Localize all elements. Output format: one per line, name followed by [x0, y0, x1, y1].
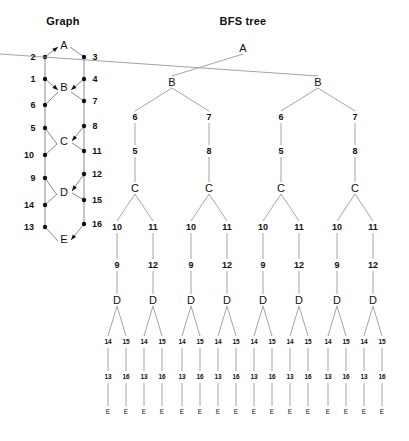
bfs-node-label: 16: [268, 374, 275, 381]
bfs-node-label: C: [351, 183, 359, 194]
bfs-node-label: E: [142, 409, 146, 416]
bfs-node-label: 9: [188, 261, 193, 270]
bfs-node-label: E: [270, 409, 274, 416]
bfs-node-label: 11: [222, 223, 232, 232]
bfs-node-label: 10: [258, 223, 268, 232]
bfs-node-label: 15: [304, 339, 311, 346]
graph-edge-node-dot: [43, 126, 47, 130]
graph-edge: [45, 194, 57, 205]
bfs-tree-edge: [290, 306, 299, 336]
bfs-node-label: 7: [206, 113, 211, 122]
bfs-node-label: E: [326, 409, 330, 416]
bfs-node-label: 13: [178, 374, 185, 381]
bfs-node-label: 8: [206, 147, 211, 156]
bfs-node-label: 9: [260, 261, 265, 270]
bfs-node-label: 15: [342, 339, 349, 346]
bfs-node-label: E: [252, 409, 256, 416]
bfs-node-label: 15: [232, 339, 239, 346]
bfs-node-label: 13: [360, 374, 367, 381]
bfs-tree-edge: [153, 306, 162, 336]
bfs-node-label: D: [113, 295, 121, 306]
bfs-node-label: E: [180, 409, 184, 416]
bfs-node-label: E: [306, 409, 310, 416]
bfs-tree-edge: [337, 306, 346, 336]
bfs-tree-edge: [263, 194, 281, 221]
graph-edge-node-dot: [82, 222, 86, 226]
bfs-tree-edge: [355, 194, 373, 221]
bfs-node-label: 5: [132, 147, 137, 156]
bfs-node-label: 13: [324, 374, 331, 381]
bfs-node-label: 16: [304, 374, 311, 381]
bfs-tree-edge: [144, 306, 153, 336]
bfs-node-label: E: [362, 409, 366, 416]
graph-edge-label: 14: [24, 201, 34, 210]
bfs-node-label: 13: [140, 374, 147, 381]
bfs-node-label: 14: [178, 339, 185, 346]
graph-edge-node-dot: [82, 99, 86, 103]
figure-canvas: Graph BFS tree 23146758101191214151316AB…: [0, 0, 409, 441]
graph-edge-node-dot: [43, 77, 47, 81]
graph-edge-label: 16: [92, 220, 102, 229]
bfs-node-label: E: [198, 409, 202, 416]
graph-edge-label: 15: [92, 196, 102, 205]
graph-vertex-label: C: [60, 136, 68, 147]
bfs-tree-edge: [281, 194, 299, 221]
graph-edge: [70, 47, 84, 57]
bfs-node-label: D: [295, 295, 303, 306]
graph-edge-label: 13: [24, 223, 34, 232]
graph-edge: [71, 92, 84, 101]
bfs-node-label: 16: [342, 374, 349, 381]
graph-edge-label: 1: [30, 75, 35, 84]
graph-edge-node-dot: [43, 203, 47, 207]
graph-vertex-label: B: [60, 82, 67, 93]
bfs-node-label: D: [369, 295, 377, 306]
graph-edge-label: 2: [30, 53, 35, 62]
bfs-node-label: B: [168, 77, 175, 88]
bfs-tree-edge: [117, 194, 135, 221]
graph-edge-label: 4: [92, 75, 97, 84]
graph-edge: [45, 178, 57, 195]
bfs-node-label: E: [216, 409, 220, 416]
bfs-node-label: 12: [222, 261, 232, 270]
bfs-tree-edge: [263, 306, 272, 336]
bfs-node-label: 16: [158, 374, 165, 381]
bfs-node-label: D: [149, 295, 157, 306]
bfs-node-label: D: [223, 295, 231, 306]
bfs-node-label: 11: [294, 223, 304, 232]
bfs-tree-edge: [182, 306, 191, 336]
bfs-node-label: 9: [114, 261, 119, 270]
bfs-tree-edge: [209, 194, 227, 221]
graph-edge-label: 11: [92, 147, 102, 156]
bfs-tree-edge: [373, 306, 382, 336]
bfs-node-label: C: [277, 183, 285, 194]
graph-edge-node-dot: [43, 153, 47, 157]
graph-edge-label: 10: [24, 151, 34, 160]
bfs-node-label: 14: [250, 339, 257, 346]
bfs-node-label: 13: [104, 374, 111, 381]
bfs-node-label: 14: [324, 339, 331, 346]
bfs-tree-edge: [108, 306, 117, 336]
graph-vertex-label: A: [60, 40, 67, 51]
bfs-tree-edge: [172, 88, 209, 111]
bfs-node-label: E: [288, 409, 292, 416]
bfs-node-label: 14: [214, 339, 221, 346]
bfs-node-label: 14: [104, 339, 111, 346]
bfs-node-label: 13: [286, 374, 293, 381]
bfs-node-label: D: [259, 295, 267, 306]
bfs-node-label: C: [205, 183, 213, 194]
graph-edge-label: 7: [92, 97, 97, 106]
bfs-node-label: 12: [148, 261, 158, 270]
graph-edge-node-dot: [82, 172, 86, 176]
graph-edge-arrowhead: [72, 185, 77, 191]
bfs-node-label: 16: [196, 374, 203, 381]
bfs-tree-edge: [318, 88, 355, 111]
bfs-node-label: E: [380, 409, 384, 416]
bfs-node-label: 14: [360, 339, 367, 346]
bfs-tree-edge: [328, 306, 337, 336]
bfs-node-label: 16: [378, 374, 385, 381]
bfs-node-label: C: [131, 183, 139, 194]
bfs-tree-edge: [191, 194, 209, 221]
bfs-node-label: 15: [378, 339, 385, 346]
bfs-node-label: 15: [158, 339, 165, 346]
bfs-node-label: 10: [186, 223, 196, 232]
